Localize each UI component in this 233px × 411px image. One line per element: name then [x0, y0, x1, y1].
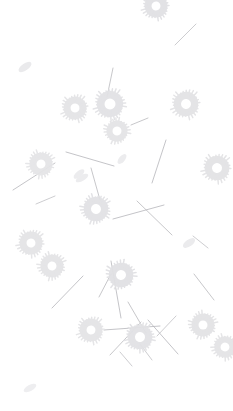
pattern-canvas — [0, 0, 233, 411]
flower-ray — [173, 102, 180, 103]
flower-ray — [185, 110, 187, 116]
flower-ray — [192, 105, 198, 106]
flower-ray — [185, 90, 187, 97]
background-rect — [0, 0, 233, 411]
flower-ray — [90, 336, 92, 342]
flower-ray — [75, 114, 76, 120]
flower-ray — [74, 95, 75, 102]
flower-ray — [63, 107, 70, 108]
scattered-botanical-illustration — [0, 0, 233, 411]
flower-ray — [97, 331, 102, 332]
